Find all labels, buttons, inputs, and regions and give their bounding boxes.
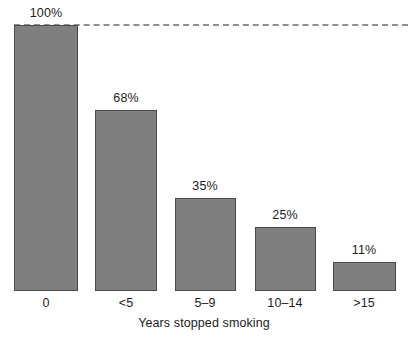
bar-chart: 100% 68% 35% 25% 11% 0 <5 5–9 10–14 >15 … xyxy=(0,0,408,343)
bar-value-label-3: 25% xyxy=(245,208,325,222)
bar-4[interactable] xyxy=(333,262,396,291)
x-tick-label-4: >15 xyxy=(324,296,404,310)
bar-value-label-1: 68% xyxy=(86,91,166,105)
plot-area: 100% 68% 35% 25% 11% xyxy=(0,0,408,291)
bar-2[interactable] xyxy=(175,198,236,291)
x-tick-label-0: 0 xyxy=(6,296,86,310)
bar-value-label-0: 100% xyxy=(6,6,86,20)
x-tick-label-1: <5 xyxy=(86,296,166,310)
bar-3[interactable] xyxy=(255,227,316,291)
bar-value-label-4: 11% xyxy=(324,243,404,257)
x-tick-label-3: 10–14 xyxy=(245,296,325,310)
x-tick-label-2: 5–9 xyxy=(165,296,245,310)
bar-1[interactable] xyxy=(95,110,157,291)
x-axis-title: Years stopped smoking xyxy=(0,316,408,330)
bar-value-label-2: 35% xyxy=(165,179,245,193)
bar-0[interactable] xyxy=(14,25,78,291)
